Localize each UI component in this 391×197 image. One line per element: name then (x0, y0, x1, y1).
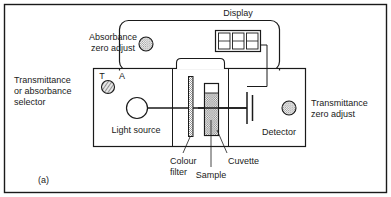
cuvette-label: Cuvette (228, 156, 259, 166)
figure-container: T A Display Absor (0, 0, 391, 197)
cuvette-assembly (205, 84, 219, 136)
transmittance-zero-adjust-knob[interactable] (282, 101, 296, 115)
sample-liquid (205, 93, 218, 135)
selector-label-line1: Transmittance (14, 75, 71, 85)
transmittance-zero-adjust-label-line1: Transmittance (311, 98, 368, 108)
sample-compartment-lid (177, 59, 225, 70)
selector-mark-t-label: T (99, 71, 105, 81)
selector-label-line2: or absorbance (14, 86, 72, 96)
absorbance-zero-adjust-label-line1: Absorbance (89, 32, 137, 42)
transmittance-zero-adjust-label-line2: zero adjust (311, 109, 356, 119)
light-source-lamp (127, 98, 148, 119)
sample-label: Sample (196, 170, 227, 180)
light-source-label: Light source (111, 125, 160, 135)
colour-filter (189, 77, 194, 137)
absorbance-zero-adjust-label-line2: zero adjust (91, 43, 136, 53)
absorbance-zero-adjust-knob[interactable] (139, 37, 153, 51)
spectrophotometer-diagram: T A Display Absor (0, 0, 391, 197)
colour-filter-label-line1: Colour (170, 156, 197, 166)
colour-filter-label-line2: filter (170, 167, 187, 177)
detector-label: Detector (262, 127, 296, 137)
figure-caption: (a) (38, 175, 49, 185)
transmittance-or-absorbance-selector-knob[interactable] (102, 81, 115, 94)
selector-mark-a-label: A (119, 71, 125, 81)
display-label: Display (223, 8, 253, 18)
selector-label-line3: selector (14, 97, 46, 107)
display-module (216, 31, 261, 52)
